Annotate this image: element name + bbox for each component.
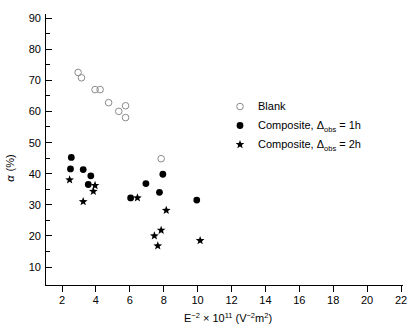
x-tick-label: 4 bbox=[93, 294, 99, 306]
x-title-base: E bbox=[184, 312, 191, 324]
x-title-exp: 11 bbox=[225, 311, 233, 320]
composite-2h-point bbox=[79, 197, 88, 205]
composite-1h-point bbox=[80, 166, 87, 173]
svg-text:E−2 × 1011 (V−2m2): E−2 × 1011 (V−2m2) bbox=[184, 311, 272, 324]
legend-label-0: Blank bbox=[258, 100, 286, 112]
y-tick-label: 90 bbox=[29, 12, 41, 24]
y-tick-label: 40 bbox=[29, 168, 41, 180]
x-tick-label: 20 bbox=[361, 294, 373, 306]
blank-point bbox=[115, 108, 122, 115]
x-tick-label: 8 bbox=[161, 294, 167, 306]
composite-1h-point bbox=[193, 197, 200, 204]
x-tick-label: 16 bbox=[293, 294, 305, 306]
legend-marker-0 bbox=[237, 103, 244, 110]
composite-2h-point bbox=[162, 206, 171, 214]
scatter-plot: 102030405060708090 246810121416182022 α(… bbox=[0, 0, 409, 330]
x-tick-label: 10 bbox=[191, 294, 203, 306]
composite-2h-point bbox=[91, 181, 100, 189]
legend-label-1: Composite, Δobs = 1h bbox=[258, 119, 361, 134]
blank-point bbox=[158, 155, 165, 162]
data-points-blank bbox=[75, 69, 165, 162]
y-tick-label: 70 bbox=[29, 74, 41, 86]
y-axis-ticks bbox=[46, 18, 52, 267]
svg-text:α(%): α(%) bbox=[4, 154, 16, 181]
y-tick-label: 50 bbox=[29, 137, 41, 149]
x-tick-label: 14 bbox=[259, 294, 271, 306]
y-tick-label: 60 bbox=[29, 105, 41, 117]
blank-point bbox=[105, 99, 112, 106]
y-axis-unit: (%) bbox=[4, 154, 16, 171]
y-tick-label: 10 bbox=[29, 261, 41, 273]
axis-lines bbox=[46, 14, 404, 286]
composite-1h-point bbox=[67, 166, 74, 173]
legend-marker-1 bbox=[237, 122, 244, 129]
x-tick-label: 12 bbox=[225, 294, 237, 306]
y-axis-tick-labels: 102030405060708090 bbox=[29, 12, 41, 273]
composite-1h-point bbox=[68, 154, 75, 161]
y-axis-symbol: α bbox=[4, 175, 16, 182]
x-tick-label: 6 bbox=[127, 294, 133, 306]
composite-1h-point bbox=[159, 171, 166, 178]
x-title-units-close: ) bbox=[268, 312, 272, 324]
x-title-units-sup1: −2 bbox=[246, 311, 255, 320]
data-points-composite-1h bbox=[67, 154, 200, 203]
composite-2h-point bbox=[196, 236, 205, 244]
x-title-base-sup: −2 bbox=[191, 311, 200, 320]
composite-1h-point bbox=[156, 189, 163, 196]
x-title-units-open: (V bbox=[232, 312, 247, 324]
composite-2h-point bbox=[153, 241, 162, 249]
y-axis-title: α(%) bbox=[4, 154, 16, 181]
x-axis-title: E−2 × 1011 (V−2m2) bbox=[184, 311, 272, 324]
blank-point bbox=[122, 114, 129, 121]
composite-2h-point bbox=[133, 193, 142, 201]
x-tick-label: 22 bbox=[395, 294, 407, 306]
composite-2h-point bbox=[157, 226, 166, 234]
blank-point bbox=[122, 102, 129, 109]
y-tick-label: 80 bbox=[29, 43, 41, 55]
composite-2h-point bbox=[65, 175, 74, 183]
x-axis-ticks bbox=[62, 286, 401, 292]
composite-2h-point bbox=[150, 231, 159, 239]
composite-1h-point bbox=[143, 180, 150, 187]
composite-1h-point bbox=[87, 172, 94, 179]
y-tick-label: 30 bbox=[29, 199, 41, 211]
composite-1h-point bbox=[127, 195, 134, 202]
chart-legend: BlankComposite, Δobs = 1hComposite, Δobs… bbox=[236, 100, 361, 153]
blank-point bbox=[78, 74, 85, 81]
legend-marker-2 bbox=[236, 140, 245, 148]
chart-figure: 102030405060708090 246810121416182022 α(… bbox=[0, 0, 409, 330]
x-title-units-m: m bbox=[255, 312, 264, 324]
x-tick-label: 18 bbox=[327, 294, 339, 306]
y-tick-label: 20 bbox=[29, 230, 41, 242]
x-title-times: × 10 bbox=[200, 312, 225, 324]
blank-point bbox=[97, 86, 104, 93]
x-tick-label: 2 bbox=[59, 294, 65, 306]
legend-label-2: Composite, Δobs = 2h bbox=[258, 138, 361, 153]
composite-1h-point bbox=[85, 181, 92, 188]
x-axis-tick-labels: 246810121416182022 bbox=[59, 294, 407, 306]
